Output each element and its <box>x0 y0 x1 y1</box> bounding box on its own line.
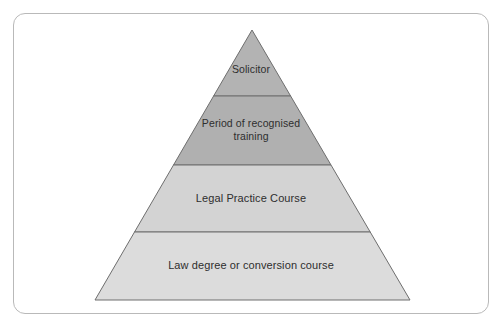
pyramid-tier-1-label: Solicitor <box>191 63 311 76</box>
pyramid-tier-3-label: Legal Practice Course <box>131 192 371 205</box>
pyramid-tier-2-label: Period of recognised training <box>161 117 341 143</box>
pyramid-shape <box>0 0 502 328</box>
pyramid-diagram: Solicitor Period of recognised training … <box>0 0 502 328</box>
pyramid-tier-4-label: Law degree or conversion course <box>101 259 401 272</box>
diagram-canvas: Solicitor Period of recognised training … <box>0 0 502 328</box>
